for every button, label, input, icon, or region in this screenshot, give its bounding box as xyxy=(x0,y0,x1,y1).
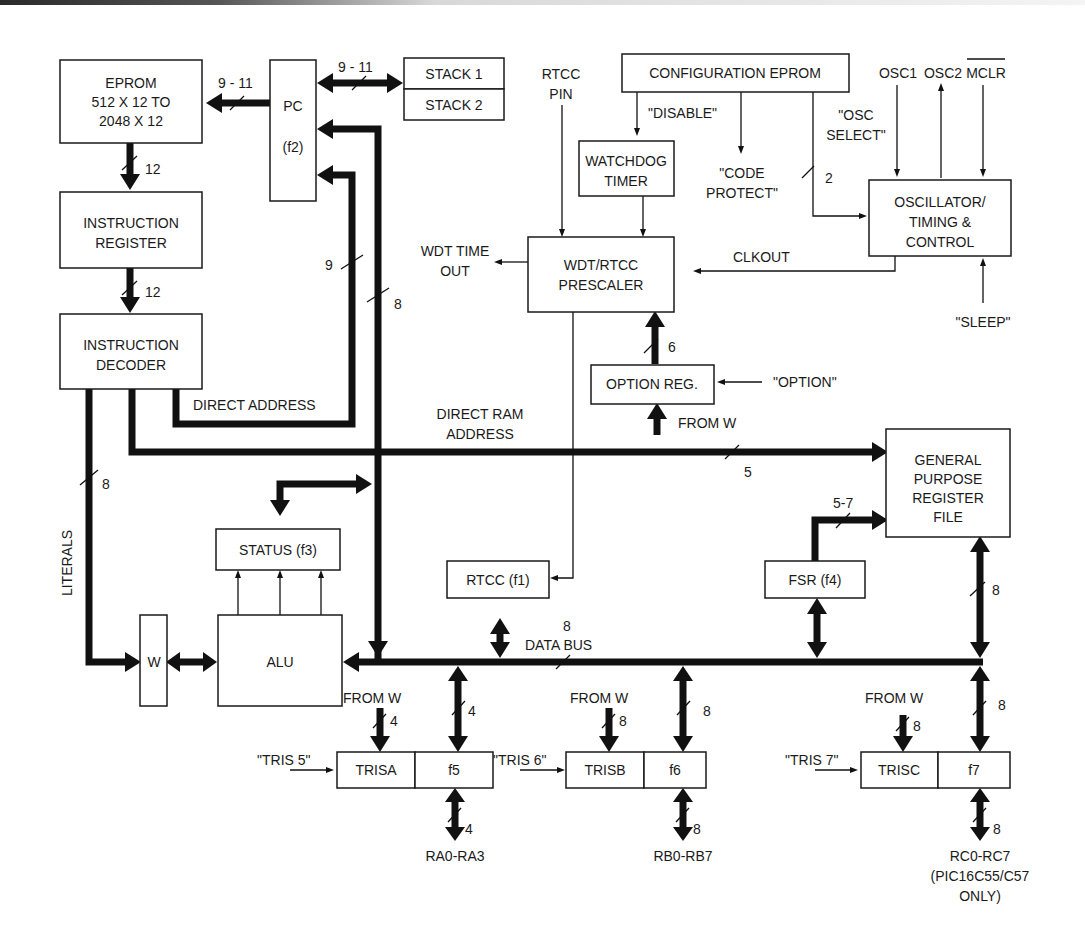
from-w-a-label: FROM W xyxy=(343,690,402,706)
data-bus-label: DATA BUS xyxy=(525,637,592,653)
prescaler-block xyxy=(528,237,674,312)
width-pc-eprom: 9 - 11 xyxy=(218,75,253,91)
wdt-timeout-label-2: OUT xyxy=(440,263,470,279)
tris6-label: "TRIS 6" xyxy=(493,752,547,768)
width-port-c: 8 xyxy=(993,821,1001,837)
rtcc-pin-label-2: PIN xyxy=(549,86,572,102)
width-ir-decoder: 12 xyxy=(145,284,161,300)
port-b-label: RB0-RB7 xyxy=(653,848,712,864)
option-reg-label: OPTION REG. xyxy=(606,376,698,392)
trisc-label: TRISC xyxy=(878,762,920,778)
direct-address-label: DIRECT ADDRESS xyxy=(193,397,316,413)
config-eprom-label: CONFIGURATION EPROM xyxy=(649,65,821,81)
option-signal-label: "OPTION" xyxy=(773,374,837,390)
width-from-w-c: 8 xyxy=(913,718,921,734)
code-protect-label-1: "CODE xyxy=(719,165,764,181)
width-direct-address: 9 xyxy=(325,257,333,273)
width-literals: 8 xyxy=(102,476,110,492)
mclr-label: MCLR xyxy=(966,65,1006,81)
width-data-to-pc: 8 xyxy=(394,296,402,312)
prescaler-label-2: PRESCALER xyxy=(559,277,644,293)
osc1-label: OSC1 xyxy=(879,65,917,81)
status-label: STATUS (f3) xyxy=(239,542,317,558)
eprom-label-1: EPROM xyxy=(105,75,156,91)
sleep-label: "SLEEP" xyxy=(955,314,1010,330)
alu-label: ALU xyxy=(266,654,293,670)
width-port-a: 4 xyxy=(465,821,473,837)
direct-ram-address-label-1: DIRECT RAM xyxy=(437,406,524,422)
tris5-label: "TRIS 5" xyxy=(257,752,311,768)
bus-fsr-to-gpr xyxy=(815,520,872,561)
wdt-timeout-label-1: WDT TIME xyxy=(421,243,490,259)
port-c-label-2: (PIC16C55/C57 xyxy=(931,868,1030,884)
ir-label-2: REGISTER xyxy=(95,235,167,251)
code-protect-label-2: PROTECT" xyxy=(706,185,778,201)
direct-ram-address-label-2: ADDRESS xyxy=(446,426,514,442)
from-w-option-label: FROM W xyxy=(678,415,737,431)
literals-label: LITERALS xyxy=(59,530,75,596)
f5-label: f5 xyxy=(448,762,460,778)
decoder-label-2: DECODER xyxy=(96,357,166,373)
width-bus-f6: 8 xyxy=(703,703,711,719)
buses xyxy=(80,73,990,841)
width-fsr-gpr: 5-7 xyxy=(833,495,853,511)
oscillator-label-1: OSCILLATOR/ xyxy=(894,194,985,210)
stack1-label: STACK 1 xyxy=(425,66,483,82)
width-port-b: 8 xyxy=(693,821,701,837)
from-w-c-label: FROM W xyxy=(865,690,924,706)
disable-label: "DISABLE" xyxy=(648,105,717,121)
ir-label-1: INSTRUCTION xyxy=(83,215,179,231)
rtcc-label: RTCC (f1) xyxy=(466,572,530,588)
watchdog-label-1: WATCHDOG xyxy=(585,153,667,169)
eprom-label-3: 2048 X 12 xyxy=(99,113,163,129)
trisb-label: TRISB xyxy=(584,762,625,778)
pc-address-label: (f2) xyxy=(283,139,304,155)
tris7-label: "TRIS 7" xyxy=(785,752,839,768)
port-a-label: RA0-RA3 xyxy=(425,848,484,864)
width-gpr-bus: 8 xyxy=(992,582,1000,598)
eprom-label-2: 512 X 12 TO xyxy=(92,94,171,110)
osc-select-width: 2 xyxy=(825,170,833,186)
fsr-label: FSR (f4) xyxy=(789,572,842,588)
port-c-label-1: RC0-RC7 xyxy=(950,848,1011,864)
width-from-w-a: 4 xyxy=(390,713,398,729)
gpr-label-3: REGISTER xyxy=(912,490,984,506)
width-option-prescaler: 6 xyxy=(668,339,676,355)
osc2-label: OSC2 xyxy=(924,65,962,81)
f7-label: f7 xyxy=(968,762,980,778)
stack2-label: STACK 2 xyxy=(425,97,483,113)
trisa-label: TRISA xyxy=(355,762,397,778)
f6-label: f6 xyxy=(669,762,681,778)
gpr-label-4: FILE xyxy=(933,509,963,525)
gpr-label-1: GENERAL xyxy=(915,452,982,468)
prescaler-label-1: WDT/RTCC xyxy=(564,257,638,273)
width-bus-f5: 4 xyxy=(468,703,476,719)
bus-status xyxy=(280,484,357,500)
pc-register xyxy=(270,60,316,201)
width-direct-ram: 5 xyxy=(744,464,752,480)
width-eprom-ir: 12 xyxy=(145,161,161,177)
osc-select-label-2: SELECT" xyxy=(826,127,885,143)
w-label: W xyxy=(147,654,161,670)
oscillator-label-2: TIMING & xyxy=(909,214,972,230)
watchdog-label-2: TIMER xyxy=(604,173,648,189)
bus-literals xyxy=(89,388,126,662)
pc-label: PC xyxy=(283,98,302,114)
decoder-label-1: INSTRUCTION xyxy=(83,337,179,353)
block-diagram: EPROM 512 X 12 TO 2048 X 12 PC (f2) STAC… xyxy=(0,0,1085,940)
width-bus-f7: 8 xyxy=(998,697,1006,713)
width-pc-stack: 9 - 11 xyxy=(338,59,373,75)
rtcc-pin-label-1: RTCC xyxy=(542,66,581,82)
osc-select-label-1: "OSC xyxy=(838,107,873,123)
from-w-b-label: FROM W xyxy=(570,690,629,706)
gpr-label-2: PURPOSE xyxy=(914,471,982,487)
port-c-label-3: ONLY) xyxy=(959,888,1001,904)
width-data-bus: 8 xyxy=(563,618,571,634)
width-from-w-b: 8 xyxy=(619,713,627,729)
clkout-label: CLKOUT xyxy=(733,249,790,265)
oscillator-label-3: CONTROL xyxy=(906,234,975,250)
